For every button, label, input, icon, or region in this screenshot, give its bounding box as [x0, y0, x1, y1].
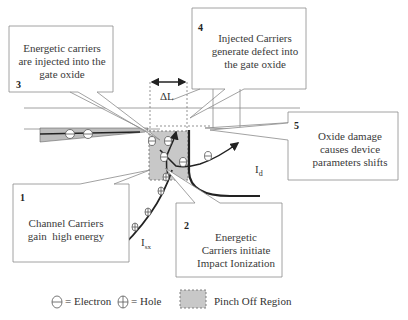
callout-3-text: Energetic carriers are injected into the…	[12, 42, 112, 81]
callout-4-line-1: Injected Carriers	[206, 32, 304, 45]
substrate-current-subscript: sx	[145, 243, 151, 251]
callout-5-number: 5	[294, 120, 299, 131]
callout-2-line-3: Impact Ionization	[190, 257, 282, 270]
callout-4-text: Injected Carriers generate defect into t…	[206, 32, 304, 71]
hole-symbol	[163, 173, 169, 181]
electron-symbol	[149, 137, 156, 146]
callout-5-line-2: causes device	[306, 143, 394, 156]
callout-2-line-1: Energetic	[190, 231, 282, 244]
callout-1-line-2: gain high energy	[20, 230, 112, 243]
drain-boundary	[189, 130, 260, 196]
callout-5-line-1: Oxide damage	[306, 130, 394, 143]
electron-symbol	[161, 153, 168, 162]
callout-4-line-3: the gate oxide	[206, 58, 304, 71]
callout-2-number: 2	[184, 220, 189, 231]
legend-pinch-off-label: Pinch Off Region	[214, 295, 291, 307]
callout-2-line-2: Carriers initiate	[190, 244, 282, 257]
callout-4-line-2: generate defect into	[206, 45, 304, 58]
hole-symbol	[158, 187, 164, 195]
delta-l-label: ΔL	[160, 90, 174, 102]
drain-current-subscript: d	[259, 169, 263, 178]
callout-2-text: Energetic Carriers initiate Impact Ioniz…	[190, 231, 282, 270]
electron-symbol	[165, 137, 172, 146]
callout-5-line-3: parameters shifts	[306, 156, 394, 169]
electron-symbol	[52, 296, 62, 308]
callout-3-line-3: gate oxide	[12, 68, 112, 81]
hole-symbol	[132, 223, 138, 231]
electron-symbol	[180, 158, 187, 167]
legend-hole-label: = Hole	[131, 295, 161, 307]
callout-1-number: 1	[20, 192, 25, 203]
drain-current-label: Id	[255, 163, 263, 178]
legend-electron-label: = Electron	[65, 295, 111, 307]
hole-symbol	[145, 208, 151, 216]
substrate-current-label: Isx	[141, 236, 151, 251]
channel-wedge	[40, 128, 148, 142]
hole-symbol	[118, 296, 128, 308]
callout-1-box	[13, 170, 150, 262]
callout-4-number: 4	[198, 22, 203, 33]
callout-1-text: Channel Carriers gain high energy	[20, 217, 112, 243]
callout-3-line-2: are injected into the	[12, 55, 112, 68]
pinch-off-swatch	[180, 290, 206, 308]
callout-5-text: Oxide damage causes device parameters sh…	[306, 130, 394, 169]
callout-3-line-1: Energetic carriers	[12, 42, 112, 55]
callout-1-line-1: Channel Carriers	[20, 217, 112, 230]
electron-symbol	[205, 152, 212, 161]
